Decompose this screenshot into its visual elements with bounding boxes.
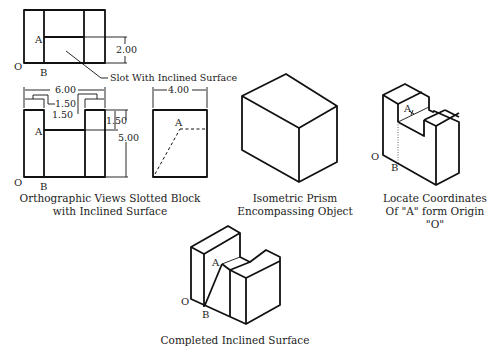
locate-caption-line2: Of "A" form Origin "O": [376, 205, 494, 231]
point-a-label-side: A: [174, 117, 183, 128]
locate-caption-line1: Locate Coordinates: [376, 192, 494, 205]
origin-o-label-front: O: [14, 177, 22, 188]
dim-overall-height: 5.00: [118, 132, 139, 143]
dim-slot-offset-1: 1.50: [55, 98, 76, 109]
isometric-prism: [242, 74, 337, 182]
completed-caption: Completed Inclined Surface: [160, 334, 310, 347]
point-a-label-completed: A: [211, 257, 220, 268]
origin-o-label-top: O: [14, 61, 22, 72]
point-a-label-front: A: [34, 126, 43, 137]
locate-caption: Locate Coordinates Of "A" form Origin "O…: [376, 192, 494, 231]
dim-slot-depth: 1.50: [106, 115, 127, 126]
point-b-label-locate: B: [391, 162, 398, 173]
dim-overall-width: 6.00: [55, 84, 76, 95]
orthographic-caption-line2: with Inclined Surface: [10, 205, 210, 218]
point-a-label-locate: A: [403, 103, 412, 114]
isometric-caption-line2: Encompassing Object: [235, 205, 355, 218]
origin-o-label-locate: O: [371, 151, 379, 162]
isometric-prism-caption: Isometric Prism Encompassing Object: [235, 192, 355, 218]
drawing-canvas: A O B 2.00 Slot With Inclined Surface 6.…: [0, 0, 494, 357]
orthographic-caption-line1: Orthographic Views Slotted Block: [10, 192, 210, 205]
point-a-label-top: A: [34, 34, 43, 45]
slot-callout-text: Slot With Inclined Surface: [110, 72, 237, 83]
point-b-label-front: B: [40, 181, 47, 192]
point-b-label-top: B: [40, 67, 47, 78]
origin-o-label-completed: O: [181, 296, 189, 307]
orthographic-caption: Orthographic Views Slotted Block with In…: [10, 192, 210, 218]
dim-side-width: 4.00: [168, 84, 189, 95]
side-view: [153, 87, 207, 177]
isometric-caption-line1: Isometric Prism: [235, 192, 355, 205]
dim-top-height: 2.00: [116, 44, 137, 55]
dim-slot-offset-2: 1.50: [52, 109, 73, 120]
point-b-label-completed: B: [202, 309, 209, 320]
